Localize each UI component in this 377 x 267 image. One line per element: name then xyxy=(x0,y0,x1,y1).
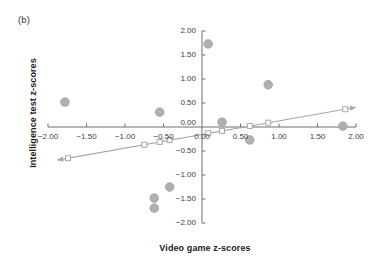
fit-marker-square xyxy=(343,107,348,112)
y-tick-label: 0.50 xyxy=(160,98,196,107)
regression-arrow-right xyxy=(350,106,356,111)
data-point-circle xyxy=(165,183,174,192)
y-tick-label: −1.00 xyxy=(160,170,196,179)
x-tick-label: −0.50 xyxy=(144,132,184,141)
x-tick-label: 0.00 xyxy=(182,132,222,141)
y-tick-label: −0.50 xyxy=(160,146,196,155)
regression-arrow-left xyxy=(57,157,63,162)
x-tick-label: −1.00 xyxy=(105,132,145,141)
x-tick-label: 2.00 xyxy=(336,132,376,141)
data-point-circle xyxy=(150,204,159,213)
x-tick-label: 0.50 xyxy=(221,132,261,141)
data-point-circle xyxy=(61,98,70,107)
scatter-plot-figure: (b) Intelligence test z-scores Video gam… xyxy=(0,0,377,267)
y-tick-label: 1.00 xyxy=(160,74,196,83)
fit-marker-square xyxy=(142,142,147,147)
x-tick-label: −1.50 xyxy=(67,132,107,141)
x-tick-label: 1.50 xyxy=(298,132,338,141)
data-point-circle xyxy=(264,80,273,89)
x-tick-label: 1.00 xyxy=(259,132,299,141)
fit-marker-square xyxy=(247,124,252,129)
data-point-circle xyxy=(218,118,227,127)
y-tick-label: 0.00 xyxy=(160,118,196,127)
fit-marker-square xyxy=(266,120,271,125)
y-tick-label: 1.50 xyxy=(160,50,196,59)
x-tick-label: −2.00 xyxy=(28,132,68,141)
data-point-circle xyxy=(155,108,164,117)
fit-marker-square xyxy=(66,156,71,161)
data-point-circle xyxy=(339,122,348,131)
y-tick-label: 2.00 xyxy=(160,26,196,35)
y-tick-label: −2.00 xyxy=(160,218,196,227)
data-point-circle xyxy=(204,40,213,49)
data-point-circle xyxy=(150,194,159,203)
y-tick-label: −1.50 xyxy=(160,194,196,203)
